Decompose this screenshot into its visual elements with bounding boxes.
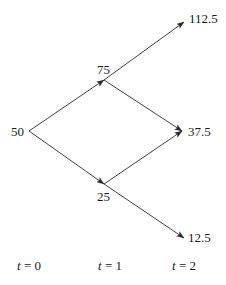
- node-downdown-label: 12.5: [188, 231, 211, 244]
- edge-down-to-updown: [104, 131, 182, 184]
- node-root-label: 50: [11, 125, 24, 138]
- time-value: = 2: [176, 258, 196, 273]
- edge-up-to-updown: [104, 80, 182, 131]
- node-upup-label: 112.5: [189, 12, 218, 25]
- edge-root-to-down: [29, 131, 104, 184]
- time-value: = 1: [102, 258, 122, 273]
- edge-root-to-up: [29, 80, 104, 131]
- node-updown-label: 37.5: [188, 125, 211, 138]
- time-label-t1: t = 1: [98, 259, 122, 272]
- time-value: = 0: [21, 258, 41, 273]
- node-up-label: 75: [97, 63, 110, 76]
- edge-up-to-upup: [104, 22, 184, 80]
- time-label-t0: t = 0: [17, 259, 41, 272]
- edge-down-to-downdown: [104, 184, 184, 238]
- time-label-t2: t = 2: [172, 259, 196, 272]
- node-down-label: 25: [97, 190, 110, 203]
